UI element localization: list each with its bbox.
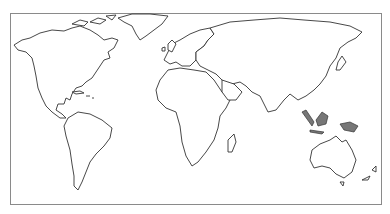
borneo (316, 112, 328, 126)
south-america (64, 112, 112, 190)
world-map (0, 0, 390, 214)
new-guinea (340, 122, 358, 132)
tasmania (340, 182, 344, 186)
africa (156, 68, 230, 166)
new-zealand (362, 166, 376, 180)
japan (336, 56, 346, 70)
java (310, 130, 324, 134)
madagascar (228, 134, 236, 152)
caribbean-islands (72, 91, 94, 98)
sumatra (302, 110, 314, 126)
australia (310, 136, 356, 178)
arctic-islands (72, 15, 116, 26)
greenland (118, 14, 168, 40)
north-america (14, 26, 118, 118)
